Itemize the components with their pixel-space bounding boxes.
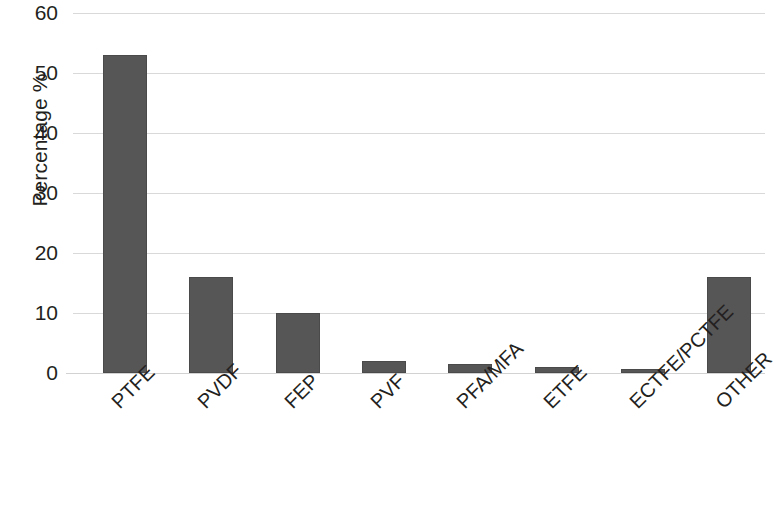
bars-group <box>0 0 765 400</box>
bar-pvdf <box>189 277 233 373</box>
x-axis-tick-label: PVF <box>366 369 409 412</box>
bar-pvf <box>362 361 406 373</box>
x-axis-tick-label: FEP <box>280 369 323 412</box>
bar-ptfe <box>103 55 147 373</box>
bar-fep <box>276 313 320 373</box>
x-axis-tick-labels: PTFEPVDFFEPPVFPFA/MFAETFEECTFE/PCTFEOTHE… <box>0 373 765 508</box>
